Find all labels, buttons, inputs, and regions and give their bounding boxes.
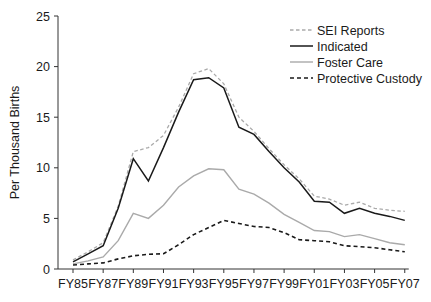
chart-canvas: 0510152025FY85FY87FY89FY91FY93FY95FY97FY… [0,0,431,302]
series-foster-care [73,169,405,264]
x-tick-label: FY91 [149,277,179,291]
y-tick-label: 25 [36,10,50,24]
line-chart: 0510152025FY85FY87FY89FY91FY93FY95FY97FY… [0,0,431,302]
x-tick-label: FY99 [269,277,299,291]
y-tick-label: 20 [36,60,50,74]
x-tick-label: FY87 [88,277,118,291]
legend-label: Indicated [317,40,368,54]
x-tick-label: FY85 [58,277,88,291]
legend-label: Protective Custody [317,72,423,86]
x-tick-label: FY93 [179,277,209,291]
x-tick-label: FY01 [299,277,329,291]
x-tick-label: FY03 [329,277,359,291]
y-tick-label: 0 [43,263,50,277]
x-tick-label: FY89 [118,277,148,291]
x-tick-label: FY07 [390,277,420,291]
series-indicated [73,78,405,262]
legend-label: Foster Care [317,56,383,70]
x-tick-label: FY05 [360,277,390,291]
y-axis-label: Per Thousand Births [8,86,22,200]
y-tick-label: 10 [36,161,50,175]
y-tick-label: 15 [36,111,50,125]
legend-label: SEI Reports [317,24,384,38]
x-tick-label: FY97 [239,277,269,291]
series-lines [73,69,405,265]
series-protective-custody [73,220,405,265]
x-tick-label: FY95 [209,277,239,291]
legend: SEI ReportsIndicatedFoster CareProtectiv… [290,24,423,86]
y-tick-label: 5 [43,212,50,226]
